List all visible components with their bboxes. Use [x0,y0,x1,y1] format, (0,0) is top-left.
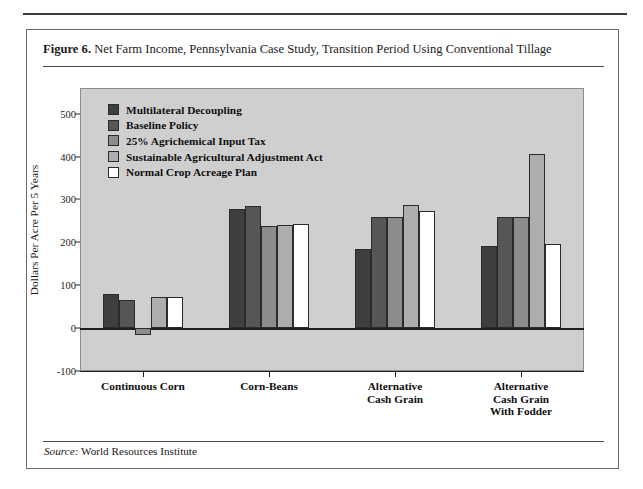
legend-label: Multilateral Decoupling [126,104,242,116]
source-text: World Resources Institute [81,445,197,457]
chart-legend: Multilateral DecouplingBaseline Policy25… [108,102,323,180]
y-tick-mark [75,156,80,157]
y-tick-label: -100 [57,366,76,377]
y-tick-label: 100 [60,280,76,291]
legend-swatch-icon [108,135,119,146]
y-tick-label: 400 [60,151,76,162]
bar [513,217,529,328]
legend-label: Baseline Policy [126,119,198,131]
bar [261,226,277,328]
bar [151,297,167,328]
legend-item: 25% Agrichemical Input Tax [108,133,323,149]
bar [387,217,403,328]
legend-swatch-icon [108,167,119,178]
legend-swatch-icon [108,120,119,131]
x-category-label: Continuous Corn [101,380,185,393]
zero-baseline [80,328,584,330]
bar [355,249,371,328]
bar [103,294,119,328]
bar [135,328,151,334]
legend-item: Multilateral Decoupling [108,102,323,118]
x-category-label: Corn-Beans [240,380,298,393]
bar [371,217,387,328]
source-note: Source: World Resources Institute [44,445,197,457]
chart-plot: Dollars Per Acre Per 5 Years -1000100200… [80,88,584,371]
legend-item: Sustainable Agricultural Adjustment Act [108,149,323,165]
bar [119,300,135,328]
legend-item: Normal Crop Acreage Plan [108,164,323,180]
y-tick-label: 300 [60,194,76,205]
legend-label: 25% Agrichemical Input Tax [126,135,266,147]
bar [545,244,561,328]
y-tick-label: 200 [60,237,76,248]
y-tick-mark [75,285,80,286]
x-category-label: AlternativeCash GrainWith Fodder [490,380,552,418]
legend-swatch-icon [108,104,119,115]
figure-container: Figure 6. Net Farm Income, Pennsylvania … [26,29,619,469]
y-tick-mark [75,199,80,200]
bar [497,217,513,328]
figure-number: Figure 6. [43,42,91,56]
legend-swatch-icon [108,151,119,162]
bar [245,206,261,328]
bar [293,224,309,328]
bar [229,209,245,328]
x-category-label: AlternativeCash Grain [367,380,423,405]
x-tick-mark [521,371,522,377]
title-divider [43,66,604,67]
page-top-rule [23,13,627,15]
bar [419,211,435,328]
figure-title: Figure 6. Net Farm Income, Pennsylvania … [43,42,603,57]
x-tick-mark [143,371,144,377]
y-tick-mark [75,113,80,114]
bar [277,225,293,328]
figure-title-text: Net Farm Income, Pennsylvania Case Study… [94,42,551,56]
source-divider [43,441,604,442]
legend-label: Normal Crop Acreage Plan [126,166,257,178]
y-tick-mark [75,242,80,243]
bar [167,297,183,328]
x-tick-mark [395,371,396,377]
legend-label: Sustainable Agricultural Adjustment Act [126,151,323,163]
bar [529,154,545,328]
bar [403,205,419,328]
x-tick-mark [269,371,270,377]
y-axis-label: Dollars Per Acre Per 5 Years [28,164,40,294]
legend-item: Baseline Policy [108,118,323,134]
x-axis-line [80,371,584,372]
bar [481,246,497,328]
source-label: Source: [44,445,78,457]
y-tick-label: 500 [60,108,76,119]
